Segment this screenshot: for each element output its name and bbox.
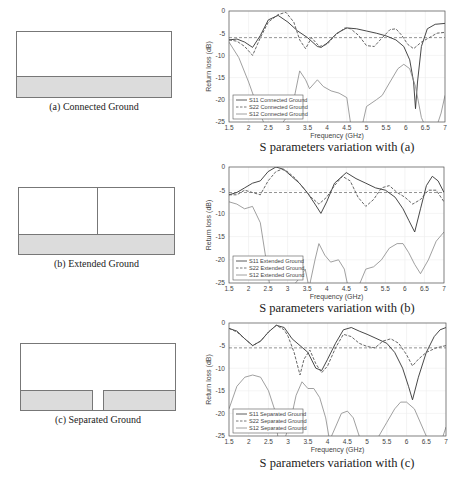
chart-caption-a: S parameters variation with (a) [229, 140, 445, 155]
y-tick-label: -25 [216, 432, 226, 439]
y-tick-label: -20 [216, 410, 226, 417]
legend-label-s22: S22 Separated Ground [249, 418, 307, 424]
x-tick-label: 1.5 [224, 438, 233, 445]
x-tick-label: 7 [444, 438, 448, 445]
legend-label-s11: S11 Separated Ground [249, 411, 306, 417]
s-parameter-chart-c: 1.522.533.544.555.566.570-5-10-15-20-25F… [0, 0, 459, 481]
x-tick-label: 6 [405, 438, 409, 445]
x-tick-label: 5 [365, 438, 369, 445]
x-tick-label: 3 [286, 438, 290, 445]
chart-caption-c: S parameters variation with (c) [229, 456, 445, 471]
y-tick-label: -10 [216, 365, 226, 372]
y-tick-label: -5 [219, 342, 225, 349]
chart-caption-b: S parameters variation with (b) [229, 301, 445, 316]
y-tick-label: -15 [216, 387, 226, 394]
x-tick-label: 4.5 [343, 438, 352, 445]
y-axis-label: Return loss (dB) [205, 354, 213, 405]
x-tick-label: 4 [326, 438, 330, 445]
x-tick-label: 3.5 [303, 438, 312, 445]
x-tick-label: 6.5 [422, 438, 431, 445]
y-tick-label: 0 [221, 319, 225, 326]
x-tick-label: 2.5 [264, 438, 273, 445]
x-tick-label: 5.5 [382, 438, 391, 445]
x-tick-label: 2 [247, 438, 251, 445]
x-axis-label: Frequency (GHz) [311, 446, 365, 454]
legend-label-s12: S12 Separated Ground [249, 425, 307, 431]
